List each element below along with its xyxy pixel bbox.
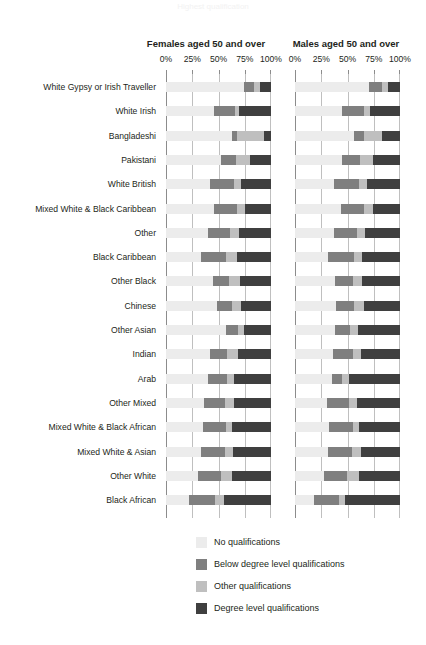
bar-segment	[166, 252, 201, 262]
bar-segment	[362, 252, 400, 262]
bar-segment	[357, 228, 365, 238]
bar-segment	[166, 228, 208, 238]
stacked-bar	[295, 301, 400, 311]
bar-segment	[230, 228, 239, 238]
x-tick-50: 50%	[205, 54, 233, 64]
bar-segment	[225, 398, 234, 408]
bar-segment	[203, 422, 226, 432]
bar-segment	[295, 82, 369, 92]
clipped-chart-title: Highest qualification	[0, 0, 426, 14]
bar-segment	[367, 179, 400, 189]
tick-mark-100	[399, 70, 400, 74]
bar-segment	[234, 398, 271, 408]
bar-segment	[166, 374, 208, 384]
bar-segment	[295, 301, 336, 311]
stacked-bar	[295, 106, 400, 116]
legend-swatch-icon	[196, 559, 207, 570]
stacked-bar	[295, 155, 400, 165]
bar-segment	[233, 447, 271, 457]
bar-segment	[166, 325, 226, 335]
bar-segment	[239, 228, 271, 238]
stacked-bar	[295, 374, 400, 384]
bar-segment	[332, 374, 343, 384]
bar-segment	[213, 276, 229, 286]
bar-segment	[345, 495, 400, 505]
bar-segment	[334, 228, 357, 238]
bar-segment	[359, 179, 367, 189]
bar-segment	[334, 179, 359, 189]
bar-segment	[210, 179, 234, 189]
stacked-bar	[166, 106, 271, 116]
bar-segment	[295, 398, 327, 408]
bar-segment	[354, 131, 365, 141]
bar-segment	[226, 252, 238, 262]
bar-segment	[295, 374, 332, 384]
bar-segment	[354, 252, 362, 262]
stacked-bar	[166, 349, 271, 359]
bar-segment	[342, 155, 360, 165]
bar-segment	[229, 276, 240, 286]
bar-segment	[245, 204, 271, 214]
stacked-bar	[166, 155, 271, 165]
bar-segment	[244, 325, 271, 335]
bar-segment	[166, 276, 213, 286]
bar-segment	[166, 349, 210, 359]
bar-segment	[221, 471, 233, 481]
stacked-bar	[295, 131, 400, 141]
bar-segment	[224, 495, 271, 505]
bar-segment	[314, 495, 339, 505]
bar-segment	[241, 301, 271, 311]
bar-segment	[241, 179, 271, 189]
bar-segment	[324, 471, 347, 481]
stacked-bar	[295, 422, 400, 432]
category-label: Other Black	[0, 276, 156, 286]
stacked-bar	[295, 398, 400, 408]
bar-segment	[359, 471, 400, 481]
bar-segment	[236, 155, 250, 165]
bar-segment	[360, 155, 373, 165]
category-label: Mixed White & Black African	[0, 422, 156, 432]
bar-segment	[295, 252, 328, 262]
panel-title-females: Females aged 50 and over	[140, 38, 272, 49]
bar-segment	[226, 325, 239, 335]
bar-segment	[244, 82, 255, 92]
stacked-bar	[295, 228, 400, 238]
bar-segment	[295, 447, 328, 457]
stacked-bar	[295, 495, 400, 505]
bar-segment	[239, 106, 271, 116]
chart-legend: No qualificationsBelow degree level qual…	[196, 531, 426, 619]
legend-label: Below degree level qualifications	[214, 559, 345, 569]
bar-segment	[166, 131, 232, 141]
bar-segment	[295, 228, 334, 238]
bar-segment	[237, 252, 271, 262]
bar-segment	[227, 374, 234, 384]
bar-segment	[328, 447, 352, 457]
bar-segment	[295, 204, 341, 214]
legend-swatch-icon	[196, 603, 207, 614]
bar-segment	[382, 131, 400, 141]
legend-item: Degree level qualifications	[196, 597, 426, 619]
category-label: White Gypsy or Irish Traveller	[0, 82, 156, 92]
bar-segment	[201, 447, 225, 457]
bar-segment	[295, 106, 342, 116]
bar-segment	[260, 82, 271, 92]
bar-segment	[166, 398, 204, 408]
bar-segment	[358, 325, 400, 335]
bar-segment	[341, 204, 364, 214]
bar-segment	[232, 301, 240, 311]
bar-segment	[208, 228, 230, 238]
bar-segment	[364, 301, 400, 311]
category-label: Arab	[0, 374, 156, 384]
bar-segment	[238, 349, 271, 359]
x-tick-50: 50%	[334, 54, 362, 64]
bar-segment	[201, 252, 226, 262]
bar-segment	[237, 131, 263, 141]
stacked-bar	[295, 204, 400, 214]
category-label: Black Caribbean	[0, 252, 156, 262]
category-label: Black African	[0, 495, 156, 505]
bar-segment	[215, 495, 223, 505]
bar-segment	[232, 471, 271, 481]
bar-segment	[295, 179, 334, 189]
legend-item: Other qualifications	[196, 575, 426, 597]
stacked-bar	[166, 301, 271, 311]
